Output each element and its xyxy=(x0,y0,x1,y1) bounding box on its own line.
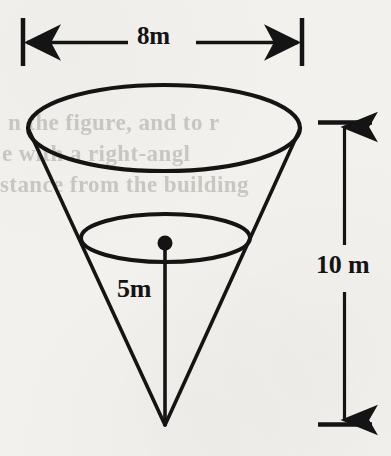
cone-top-rim-ellipse xyxy=(28,85,300,171)
cone-diagram-svg xyxy=(0,0,391,456)
cone-right-slant-edge xyxy=(165,130,300,425)
top-diameter-label: 8m xyxy=(137,23,170,48)
height-label: 10 m xyxy=(316,252,369,278)
center-point-dot xyxy=(158,236,173,251)
depth-label: 5m xyxy=(117,276,151,302)
cone-figure: n the figure, and to r e with a right-an… xyxy=(0,0,391,456)
